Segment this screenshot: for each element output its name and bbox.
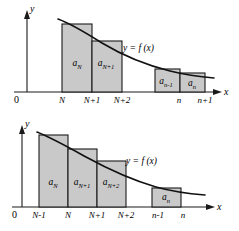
y-axis-label-top: y	[29, 3, 35, 14]
tick-label-bottom-4: n-1	[152, 210, 164, 220]
tick-label-bottom-3: N+2	[117, 210, 135, 220]
tick-label-bottom-1: N	[64, 210, 72, 220]
tick-label-top-2: N+2	[113, 95, 131, 105]
bar-bottom-2	[68, 149, 97, 207]
x-axis-label-bottom: x	[216, 201, 222, 212]
chart-svg-top: y x 0 aN aN+1 an-1	[0, 0, 239, 115]
y-axis-bottom	[19, 125, 25, 207]
origin-label-top: 0	[14, 94, 19, 105]
bar-bottom-1	[39, 135, 68, 207]
curve-label-bottom: y = f (x)	[125, 156, 157, 167]
chart-panel-bottom: y x 0 aN aN+1 aN+2	[0, 115, 239, 231]
figure-root: y x 0 aN aN+1 an-1	[0, 0, 239, 231]
tick-label-bottom-2: N+1	[88, 210, 106, 220]
curve-label-top: y = f (x)	[122, 43, 154, 54]
chart-panel-top: y x 0 aN aN+1 an-1	[0, 0, 239, 115]
chart-svg-bottom: y x 0 aN aN+1 aN+2	[0, 115, 239, 231]
y-axis-top	[24, 10, 30, 92]
tick-label-top-1: N+1	[83, 95, 101, 105]
y-axis-label-bottom: y	[24, 118, 30, 129]
tick-label-bottom-0: N-1	[31, 210, 46, 220]
tick-label-top-3: n	[177, 95, 182, 105]
x-axis-label-top: x	[223, 86, 229, 97]
tick-label-top-0: N	[58, 95, 66, 105]
origin-label-bottom: 0	[12, 209, 17, 220]
tick-label-top-4: n+1	[197, 95, 212, 105]
tick-label-bottom-5: n	[181, 210, 186, 220]
